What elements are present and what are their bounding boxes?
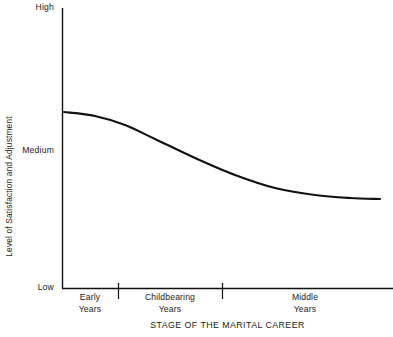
y-tick-label-low: Low — [0, 282, 54, 292]
x-axis-title: STAGE OF THE MARITAL CAREER — [62, 320, 393, 330]
x-tick-label-childbearing-years: Childbearing Years — [118, 292, 222, 315]
x-tick-label-line2: Years — [252, 304, 358, 316]
x-tick-label-line2: Years — [62, 304, 118, 316]
chart-figure: Level of Satisfaction and Adjustment Hig… — [0, 0, 393, 337]
y-tick-label-medium: Medium — [0, 145, 54, 155]
satisfaction-curve — [64, 112, 380, 199]
x-tick-label-early-years: Early Years — [62, 292, 118, 315]
x-tick-label-line1: Childbearing — [118, 292, 222, 304]
x-tick-label-line2: Years — [118, 304, 222, 316]
x-tick-label-middle-years: Middle Years — [252, 292, 358, 315]
y-tick-label-high: High — [0, 2, 54, 12]
x-tick-label-line1: Middle — [252, 292, 358, 304]
chart-plot-area — [0, 0, 393, 337]
x-tick-label-line1: Early — [62, 292, 118, 304]
y-axis-title-text: Level of Satisfaction and Adjustment — [4, 116, 14, 256]
